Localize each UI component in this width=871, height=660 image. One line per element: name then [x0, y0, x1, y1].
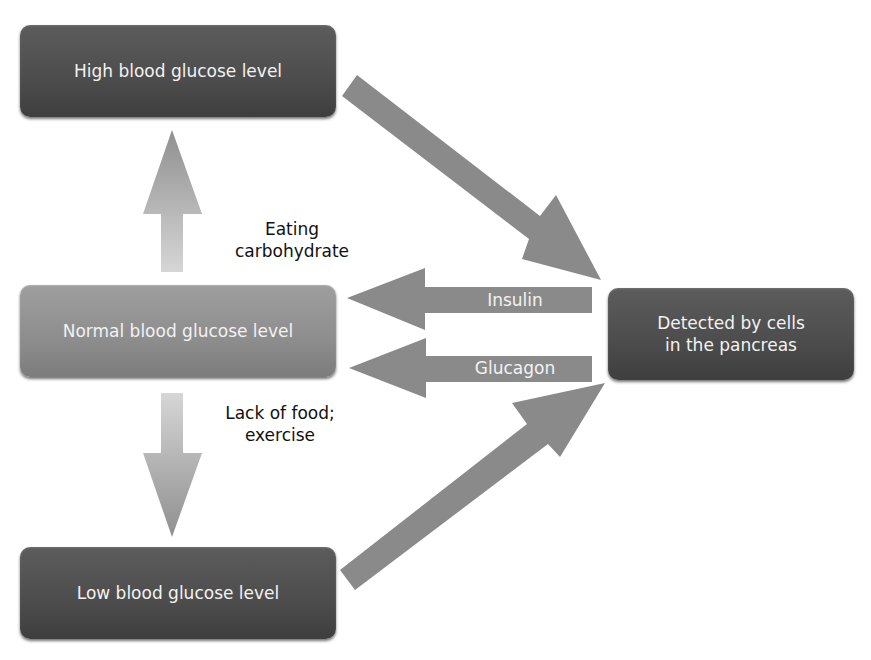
arrow-lack-down [143, 393, 202, 537]
arrow-low-to-pancreas [340, 383, 605, 590]
node-pancreas-line2: in the pancreas [665, 334, 797, 356]
edge-label-lack-line2: exercise [210, 424, 350, 446]
node-normal-blood-glucose: Normal blood glucose level [20, 285, 336, 377]
node-normal-label: Normal blood glucose level [63, 320, 294, 342]
edge-label-lack-of-food: Lack of food; exercise [210, 402, 350, 446]
edge-label-glucagon: Glucagon [440, 358, 590, 378]
edge-label-eating: Eating carbohydrate [222, 218, 362, 262]
edge-label-eating-line2: carbohydrate [222, 240, 362, 262]
arrow-eating-up [143, 130, 202, 272]
node-pancreas-line1: Detected by cells [657, 312, 805, 334]
arrow-high-to-pancreas [342, 75, 601, 280]
edge-label-insulin: Insulin [440, 290, 590, 310]
edge-label-lack-line1: Lack of food; [210, 402, 350, 424]
edge-label-eating-line1: Eating [222, 218, 362, 240]
node-high-label: High blood glucose level [74, 60, 282, 82]
node-low-label: Low blood glucose level [77, 582, 280, 604]
node-low-blood-glucose: Low blood glucose level [20, 547, 336, 639]
node-pancreas: Detected by cells in the pancreas [608, 288, 854, 380]
node-high-blood-glucose: High blood glucose level [20, 25, 336, 117]
